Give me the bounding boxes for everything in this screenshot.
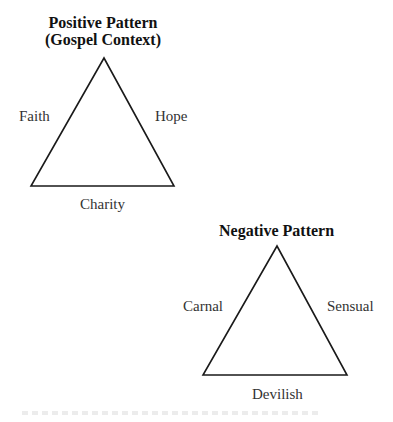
positive-triangle <box>31 58 174 186</box>
negative-triangle <box>203 246 347 375</box>
cut-off-text-line <box>22 411 322 415</box>
triangles <box>0 0 393 422</box>
